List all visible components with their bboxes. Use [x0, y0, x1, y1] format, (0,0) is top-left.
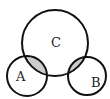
label-a: A: [15, 69, 26, 84]
label-c: C: [51, 35, 61, 50]
venn-diagram: C A B: [0, 0, 110, 99]
label-b: B: [91, 75, 101, 90]
